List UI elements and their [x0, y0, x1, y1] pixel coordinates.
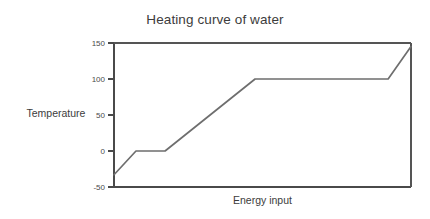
y-tick-label-neg50: -50: [93, 183, 105, 192]
plot-area: 150 100 50 0 -50: [0, 0, 430, 219]
y-tick-label-100: 100: [92, 75, 106, 84]
y-tick-label-50: 50: [96, 111, 105, 120]
plot-frame: [114, 43, 411, 187]
y-axis-tick-labels: 150 100 50 0 -50: [92, 39, 106, 192]
y-axis-ticks: [108, 43, 114, 187]
y-tick-label-150: 150: [92, 39, 106, 48]
heating-curve-chart: Heating curve of water Temperature Energ…: [0, 0, 430, 219]
y-tick-label-0: 0: [101, 147, 106, 156]
heating-curve-line: [114, 47, 411, 175]
